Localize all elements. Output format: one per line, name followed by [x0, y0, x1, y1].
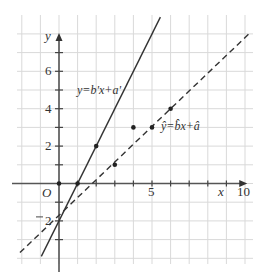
solid-line-label: y=b'x+a' — [76, 83, 121, 97]
x-axis-label: x — [217, 184, 224, 199]
dashed-line-label: ŷ=b̂x+â — [160, 119, 200, 133]
y-axis-label: y — [43, 28, 51, 43]
x-tick-label-5: 5 — [148, 184, 155, 199]
y-tick-label-6: 6 — [45, 63, 52, 78]
data-point — [113, 163, 118, 168]
data-point — [75, 181, 80, 186]
data-point — [150, 125, 155, 130]
x-tick-label-10: 10 — [237, 184, 250, 199]
y-tick-label-4: 4 — [45, 101, 52, 116]
origin-label: O — [42, 185, 52, 200]
y-tick-label-neg2: 2 — [45, 213, 52, 228]
data-point — [57, 181, 62, 186]
data-point — [94, 144, 99, 149]
data-point — [168, 106, 173, 111]
regression-chart: y x O 5 10 6 4 2 2 y=b'x+a' ŷ=b̂x+â — [0, 0, 264, 278]
y-tick-label-2: 2 — [45, 138, 52, 153]
data-point — [131, 125, 136, 130]
regression-line-dashed — [20, 34, 249, 253]
grid-lines — [17, 15, 253, 264]
